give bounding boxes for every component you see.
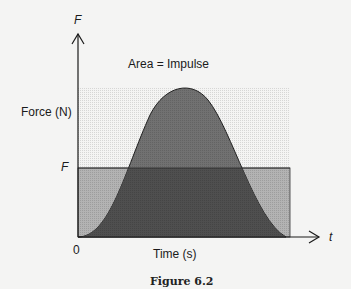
- y-axis-label: Force (N): [21, 105, 72, 119]
- average-force-label: F: [61, 160, 68, 174]
- y-axis-symbol: F: [74, 13, 81, 27]
- figure-caption: Figure 6.2: [150, 275, 213, 288]
- x-axis-symbol: t: [329, 230, 332, 244]
- origin-label: 0: [73, 243, 80, 257]
- x-axis-label: Time (s): [153, 247, 197, 261]
- area-annotation: Area = Impulse: [128, 57, 209, 71]
- impulse-diagram: [0, 0, 351, 289]
